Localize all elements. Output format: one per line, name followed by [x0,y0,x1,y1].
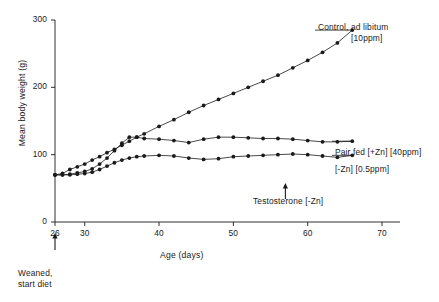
data-point [217,135,221,139]
data-point [246,154,250,158]
data-point [261,153,265,157]
data-point [127,156,131,160]
data-point [291,66,295,70]
data-point [98,155,102,159]
data-point [83,172,87,176]
data-point [105,164,109,168]
data-point [217,98,221,102]
data-point [113,149,117,153]
data-point [187,110,191,114]
data-point [127,139,131,143]
data-point [120,141,124,145]
data-point [98,162,102,166]
data-point [142,154,146,158]
x-tick-label: 40 [139,228,179,238]
x-tick-label: 70 [362,228,402,238]
arrow-head [283,183,288,189]
data-point [68,173,72,177]
data-point [105,151,109,155]
data-point [135,155,139,159]
annotation-weaned: Weaned, start diet [18,268,52,290]
data-point [135,135,139,139]
annotation-weaned-line2: start diet [18,279,52,289]
y-tick-label: 0 [0,216,47,226]
data-point [172,154,176,158]
x-tick-label: 30 [65,228,105,238]
data-point [202,157,206,161]
data-point [75,165,79,169]
data-point [157,124,161,128]
data-point [306,139,310,143]
data-point [142,137,146,141]
annotation-testosterone: Testosterone [-Zn] [253,196,323,207]
data-point [217,157,221,161]
annotation-arrows-group [52,183,288,250]
data-point [75,172,79,176]
data-point [172,118,176,122]
y-axis-label: Mean body weight (g) [17,51,27,155]
data-point [90,170,94,174]
data-point [261,79,265,83]
data-point [83,162,87,166]
data-point [276,137,280,141]
y-tick-label: 100 [0,149,47,159]
data-point [202,104,206,108]
data-point [68,168,72,172]
data-point [231,135,235,139]
data-point [187,156,191,160]
y-tick-label: 200 [0,81,47,91]
legend-control-line2: [10ppm] [318,33,388,44]
data-point [113,161,117,165]
data-point [261,137,265,141]
y-tick-label: 300 [0,14,47,24]
axes-group [51,20,400,226]
data-point [321,154,325,158]
data-point [202,137,206,141]
data-point [90,167,94,171]
data-point [231,155,235,159]
data-point [276,153,280,157]
legend-label-pair-fed: Pair fed [+Zn] [40ppm] [335,147,421,158]
data-series-group [53,28,354,177]
legend-label-control: Control, ad libitum [10ppm] [318,22,388,43]
data-point [105,156,109,160]
data-point [172,139,176,143]
data-point [306,59,310,63]
data-point [321,50,325,54]
data-point [231,91,235,95]
data-point [157,137,161,141]
data-point [53,173,57,177]
data-point [276,73,280,77]
data-point [246,136,250,140]
data-point [291,137,295,141]
data-point [336,140,340,144]
legend-control-line1: Control, ad libitum [318,22,388,32]
data-point [90,158,94,162]
x-tick-label: 60 [288,228,328,238]
data-point [187,141,191,145]
data-point [98,168,102,172]
data-point [127,135,131,139]
data-point [246,85,250,89]
data-point [142,132,146,136]
x-axis-label: Age (days) [160,250,204,260]
chart-figure: Mean body weight (g) Age (days) 01002003… [0,0,439,302]
annotation-weaned-line1: Weaned, [18,268,52,278]
data-point [120,158,124,162]
data-point [321,140,325,144]
legend-label-minus-zn: [-Zn] [0.5ppm] [335,164,389,175]
x-tick-label: 50 [213,228,253,238]
data-point [61,173,65,177]
data-point [157,153,161,157]
data-point [291,152,295,156]
data-point [306,153,310,157]
